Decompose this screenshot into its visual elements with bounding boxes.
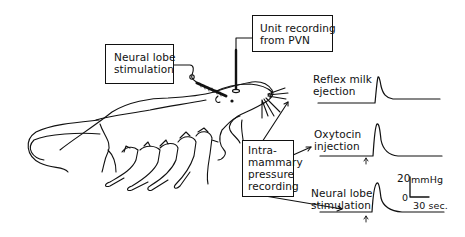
box-label: stimulation: [114, 63, 173, 75]
box-label: mammary: [248, 156, 293, 168]
trace-label-neural: Neural lobe stimulation: [311, 187, 373, 211]
pup-3: [148, 144, 178, 191]
scale-y-unit: mmHg: [411, 174, 443, 186]
rat-tail: [28, 120, 99, 172]
trace-label-oxytocin: Oxytocin injection: [314, 128, 361, 152]
unit-recording-box: Unit recording from PVN: [252, 15, 333, 52]
stimulus-marker-neural: [364, 216, 368, 222]
box-label: Intra-: [248, 144, 293, 156]
stimulus-marker-oxytocin: [364, 158, 368, 164]
trace-label-reflex: Reflex milk ejection: [313, 73, 372, 97]
scale-y-value: 20: [397, 172, 411, 184]
scale-x-label: 30 sec.: [413, 200, 448, 212]
box-label: pressure: [248, 168, 293, 180]
rat-belly-outline: [229, 103, 264, 143]
electrode-clip: [216, 96, 220, 102]
neural-lobe-stimulation-box: Neural lobe stimulation: [105, 44, 174, 84]
rat-hind-leg: [100, 124, 116, 172]
scale-y-zero: 0: [402, 192, 408, 204]
rat-whiskers: [262, 88, 288, 118]
intramammary-pressure-box: Intra- mammary pressure recording: [242, 140, 294, 197]
rat-eye: [230, 99, 233, 102]
box-label: recording: [248, 180, 293, 192]
box-label: from PVN: [260, 34, 332, 46]
pup-2: [128, 146, 161, 190]
box-label: Unit recording: [260, 22, 332, 34]
pup-5: [196, 132, 218, 184]
arrow-to-reflex: [262, 102, 288, 142]
pup-4: [174, 137, 196, 188]
diagram-canvas: [0, 0, 465, 237]
rat-back-curve: [96, 100, 206, 120]
box-label: Neural lobe: [114, 51, 173, 63]
stim-wire: [173, 65, 197, 83]
